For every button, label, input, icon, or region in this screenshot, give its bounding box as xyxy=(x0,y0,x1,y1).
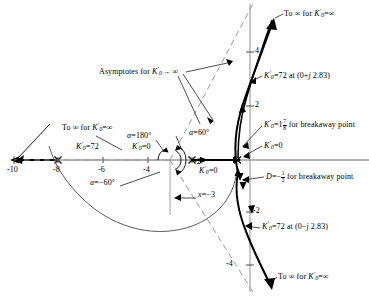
tick-label-minus-8: -8 xyxy=(53,165,60,174)
annotation-leader-heads xyxy=(174,59,256,230)
label-alpha-60: α=60° xyxy=(189,128,209,137)
asymptote-minus60 xyxy=(170,160,253,292)
locus-branch-left-arc xyxy=(49,146,236,231)
tick-label-neg-2: -2 xyxy=(253,206,260,215)
label-k72-lower-crossing: K′0=72 at (0−j 2.83) xyxy=(262,221,328,231)
label-k72-upper-crossing: K′0=72 at (0+j 2.83) xyxy=(264,70,330,80)
arc-minus60-inner xyxy=(176,160,182,170)
tick-label-minus-6: -6 xyxy=(98,165,105,174)
tick-label-minus-4: -4 xyxy=(143,165,150,174)
arc-60-inner xyxy=(176,151,182,161)
leader-to-inf-left xyxy=(18,124,50,158)
label-to-inf-left: To ∞ for K′0=∞ xyxy=(62,122,113,132)
label-alpha-minus-60: α=−60° xyxy=(90,178,115,187)
label-k0-zero-right: K′0=0 xyxy=(264,140,283,150)
label-k0-origin: K′0=0 xyxy=(199,165,218,175)
locus-arrow-upper-right xyxy=(266,18,277,30)
tick-label-minus-10: -10 xyxy=(7,165,18,174)
label-k0-left: K′0=0 xyxy=(132,141,151,151)
asymptote-plus60 xyxy=(170,4,253,160)
tick-label-plus-4: 4 xyxy=(255,46,259,55)
root-locus-plot xyxy=(0,0,369,296)
label-to-inf-upper-right: To ∞ for K′0=∞ xyxy=(284,8,335,18)
label-to-inf-lower-right: To ∞ for K′0=∞ xyxy=(278,271,329,281)
root-locus-figure: To ∞ for K′0=∞ K′0=72 K′0=0 Asymptotes f… xyxy=(0,0,369,296)
label-x-equals-minus-3: x=−3 xyxy=(198,190,215,199)
label-asymptotes: Asymptotes for K′0→ ∞ xyxy=(99,66,178,76)
tick-label-minus-2: -2 xyxy=(194,157,201,166)
label-breakaway-D: D=−12 for breakaway point xyxy=(266,171,353,184)
label-k72-left: K′0=72 xyxy=(76,141,99,151)
locus-arrow-mid-right xyxy=(200,157,208,163)
tick-label-plus-2: 2 xyxy=(255,100,259,109)
label-alpha-180: α=180° xyxy=(127,131,152,140)
tick-label-neg-4: -4 xyxy=(226,259,233,268)
label-breakaway-gain: K′0=178 for breakaway point xyxy=(264,119,355,132)
